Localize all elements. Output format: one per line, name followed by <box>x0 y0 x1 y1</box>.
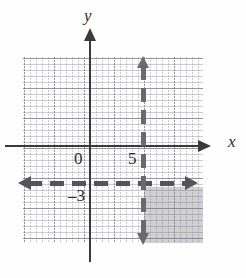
horizontal-boundary-right-arrow-icon <box>185 176 198 190</box>
horizontal-boundary-left-arrow-icon <box>18 176 31 190</box>
coordinate-plane-figure: y x 0 5 –3 <box>0 0 246 278</box>
horizontal-boundary-dashed-line <box>28 181 190 186</box>
y-axis-line <box>89 40 91 262</box>
origin-tick-label: 0 <box>74 149 83 169</box>
x-axis-label: x <box>228 132 236 152</box>
x-tick-label-5: 5 <box>128 149 137 169</box>
vertical-boundary-up-arrow-icon <box>137 56 149 68</box>
y-tick-label-neg3: –3 <box>68 186 85 206</box>
x-axis-arrow-icon <box>198 140 211 152</box>
y-axis-label: y <box>84 6 92 26</box>
x-axis-line <box>5 145 201 147</box>
shaded-solution-region <box>144 187 203 243</box>
y-axis-arrow-icon <box>84 28 96 41</box>
vertical-boundary-dashed-line <box>141 66 146 241</box>
vertical-boundary-down-arrow-icon <box>137 233 149 245</box>
